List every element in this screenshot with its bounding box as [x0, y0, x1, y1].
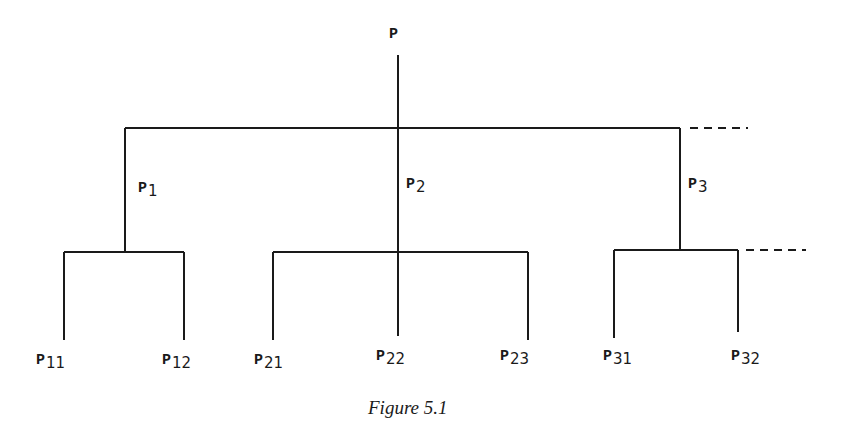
node-p22: P22: [376, 346, 405, 365]
node-p32: P32: [731, 346, 760, 365]
node-p31: P31: [603, 346, 632, 365]
node-p11: P11: [36, 350, 65, 369]
node-p12: P12: [162, 350, 191, 369]
node-p1: P1: [138, 178, 158, 197]
node-root: P: [389, 26, 398, 43]
figure-caption: Figure 5.1: [368, 397, 448, 419]
node-p3: P3: [688, 174, 708, 193]
node-p23: P23: [500, 346, 529, 365]
node-p21: P21: [254, 350, 283, 369]
node-p2: P2: [406, 174, 426, 193]
tree-diagram: [0, 0, 841, 442]
